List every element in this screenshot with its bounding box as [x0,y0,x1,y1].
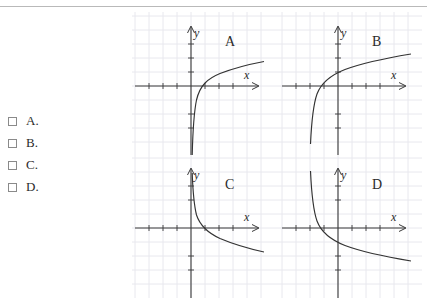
axes-c [135,168,259,298]
graph-d-letter: D [372,177,382,193]
option-label-d: D. [26,179,39,195]
grid-d [277,155,422,298]
checkbox-d[interactable] [8,183,17,192]
answer-options-list: A. B. C. D. [8,110,108,198]
graph-panel-a: A x y [132,12,277,155]
checkbox-c[interactable] [8,161,17,170]
graph-panel-c: C x y [132,155,277,298]
option-row-b[interactable]: B. [8,132,108,154]
axes-d [282,168,406,298]
option-label-a: A. [26,113,39,129]
graph-d-y-label: y [341,168,346,183]
graph-a-x-label: x [244,68,249,83]
option-row-d[interactable]: D. [8,176,108,198]
axes-b [282,26,406,155]
graph-a-figure [132,12,277,155]
graph-c-y-label: y [194,168,199,183]
graph-a-y-label: y [194,26,199,41]
graph-panel-group: A x y [132,12,422,298]
curve-a [192,62,264,156]
graph-b-x-label: x [391,68,396,83]
graph-panel-b: B x y [277,12,422,155]
option-label-c: C. [26,157,38,173]
graph-b-y-label: y [341,26,346,41]
graph-c-letter: C [225,177,234,193]
axes-a [135,26,259,155]
graph-a-letter: A [225,34,235,50]
option-row-a[interactable]: A. [8,110,108,132]
graph-b-letter: B [372,34,381,50]
header-divider [0,6,427,7]
option-row-c[interactable]: C. [8,154,108,176]
graph-panel-d: D x y [277,155,422,298]
option-label-b: B. [26,135,38,151]
graph-d-x-label: x [391,210,396,225]
checkbox-b[interactable] [8,139,17,148]
graph-b-figure [277,12,422,155]
graph-c-figure [132,155,277,298]
graph-d-figure [277,155,422,298]
checkbox-a[interactable] [8,117,17,126]
graph-c-x-label: x [244,210,249,225]
